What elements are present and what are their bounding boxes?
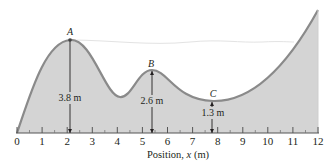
tick-label-1: 1	[39, 135, 45, 147]
tick-label-8: 8	[215, 135, 221, 147]
height-label-b: 2.6 m	[141, 95, 164, 106]
point-label-c: C	[210, 88, 217, 99]
point-label-b: B	[148, 58, 154, 69]
tick-label-9: 9	[240, 135, 246, 147]
tick-label-3: 3	[90, 135, 96, 147]
height-label-a: 3.8 m	[59, 92, 82, 103]
track-profile-diagram: 0 1 2 3 4 5 6 7 8 9 10 11 12 Position, x…	[0, 0, 332, 162]
point-label-a: A	[66, 26, 74, 37]
tick-label-11: 11	[288, 135, 299, 147]
tick-label-10: 10	[262, 135, 274, 147]
faint-reference-line	[70, 40, 294, 43]
x-axis-tick-labels: 0 1 2 3 4 5 6 7 8 9 10 11 12	[14, 135, 323, 147]
tick-label-12: 12	[313, 135, 324, 147]
tick-label-7: 7	[190, 135, 196, 147]
tick-label-6: 6	[165, 135, 171, 147]
tick-label-5: 5	[140, 135, 146, 147]
height-label-c: 1.3 m	[202, 107, 225, 118]
x-axis-title: Position, x (m)	[147, 149, 210, 161]
tick-label-4: 4	[115, 135, 121, 147]
tick-label-0: 0	[14, 135, 20, 147]
tick-label-2: 2	[64, 135, 70, 147]
point-a-marker	[68, 38, 72, 42]
